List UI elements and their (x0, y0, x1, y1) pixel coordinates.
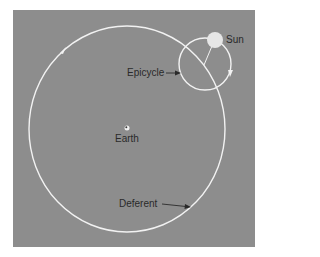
earth-shading (125, 126, 127, 128)
deferent-label: Deferent (119, 199, 157, 209)
deferent-pointer-line (162, 204, 186, 207)
deferent-direction-arrow-icon (60, 47, 66, 54)
epicycle-label: Epicycle (127, 68, 164, 78)
sun-label: Sun (226, 35, 244, 45)
epicycle-radius-line (204, 46, 212, 65)
epicycle-orbit (179, 38, 231, 90)
sun-icon (207, 32, 223, 48)
earth-label: Earth (115, 134, 139, 144)
